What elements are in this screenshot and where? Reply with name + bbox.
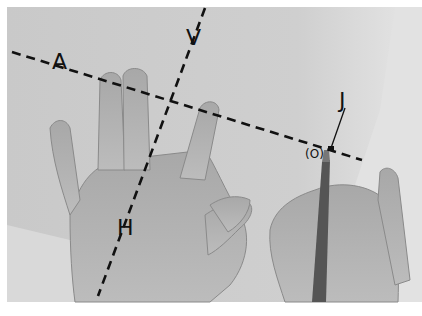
point-o-marker (328, 146, 334, 151)
label-h: H (117, 217, 134, 239)
label-o: (O) (305, 148, 324, 160)
label-a: A (52, 51, 67, 73)
label-j: J (339, 90, 346, 112)
annotated-hand-photo (0, 0, 422, 316)
label-v: V (186, 27, 201, 49)
